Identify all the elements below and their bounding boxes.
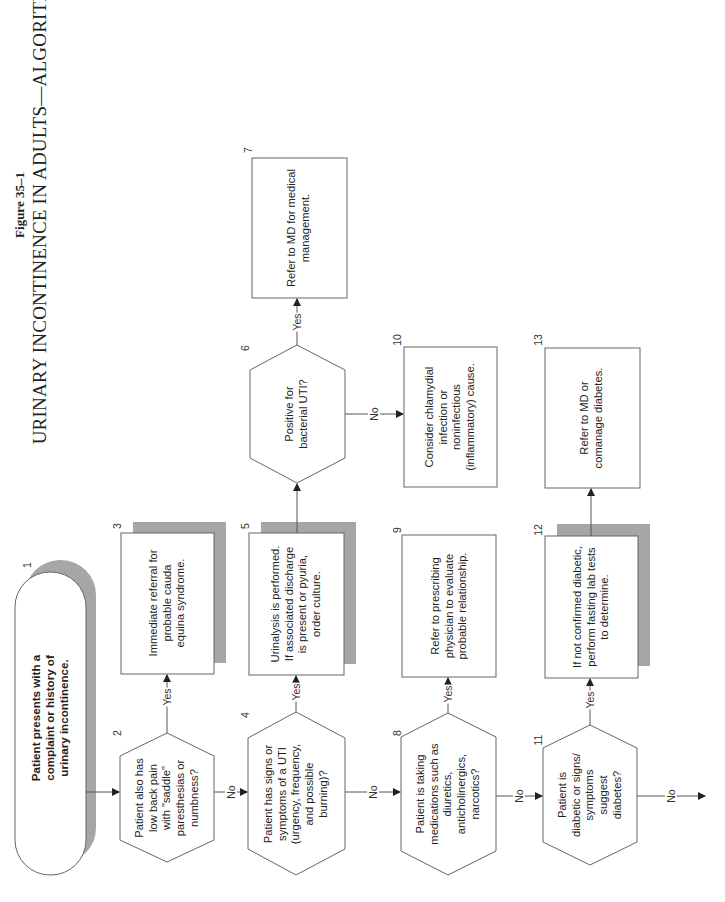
node-5-text: Urinalysis is performed. If associated d…	[269, 546, 324, 663]
edge-2-3-label: Yes	[161, 687, 173, 706]
node-3-number: 3	[111, 523, 123, 529]
node-3-text: Immediate referral for probable cauda eq…	[147, 550, 188, 657]
edge-2-4-label: No	[225, 784, 237, 799]
edge-11-continue-label: No	[665, 788, 677, 803]
figure-label: Figure 35–1	[12, 172, 28, 238]
node-8-number: 8	[391, 730, 403, 736]
figure-title: URINARY INCONTINENCE IN ADULTS—ALGORITHM…	[28, 0, 51, 444]
node-5-number: 5	[239, 523, 251, 529]
node-13-number: 13	[532, 334, 544, 346]
node-6-text: Positive for bacterial UTI?	[283, 379, 310, 449]
node-1-text: Patient presents with a complaint or his…	[29, 655, 71, 781]
node-10-text: Consider chlamydial infection or noninfe…	[423, 363, 478, 471]
edge-11-12-label: Yes	[584, 690, 596, 709]
node-2-number: 2	[111, 730, 123, 736]
edge-4-8-label: No	[367, 784, 379, 799]
node-12-text: If not confirmed diabetic, perform fasti…	[571, 546, 612, 668]
node-13-text: Refer to MD or comanage diabetes.	[578, 368, 605, 469]
edge-4-5-label: Yes	[290, 682, 302, 701]
node-4-text: Patient has signs or symptoms of a UTI (…	[262, 744, 330, 844]
node-7-number: 7	[242, 147, 254, 153]
node-9-number: 9	[391, 527, 403, 533]
node-2-text: Patient also has low back pain with "sad…	[133, 758, 201, 838]
edge-8-11-label: No	[513, 788, 525, 803]
node-6-number: 6	[239, 345, 251, 351]
node-9-text: Refer to prescribing physician to evalua…	[429, 553, 470, 660]
node-12-number: 12	[532, 524, 544, 536]
node-4-number: 4	[239, 712, 251, 718]
node-1-number: 1	[21, 562, 33, 568]
node-8-text: Patient is taking medications such as di…	[414, 743, 482, 844]
node-11-text: Patient is diabetic or signs/ symptoms s…	[556, 753, 624, 837]
edge-8-9-label: Yes	[442, 684, 454, 703]
node-10-number: 10	[391, 334, 403, 346]
node-7-text: Refer to MD for medical management.	[285, 169, 312, 287]
node-11-number: 11	[532, 735, 544, 746]
edge-6-7-label: Yes	[291, 312, 303, 331]
edge-6-10-label: No	[368, 406, 380, 421]
